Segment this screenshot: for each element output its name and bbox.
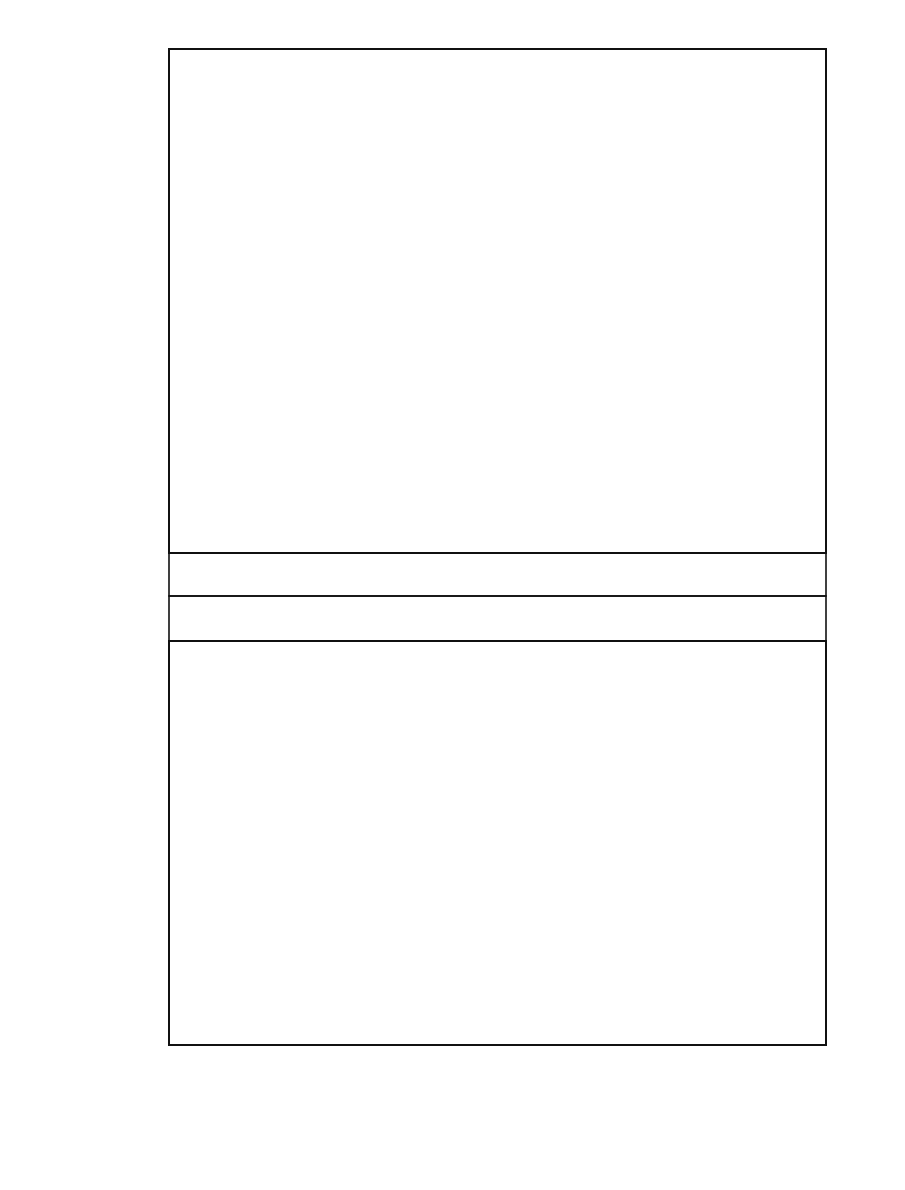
bottom-panel-frame: [169, 641, 826, 1045]
stratigraphy-band: [169, 553, 826, 641]
foram-zone-row: [169, 596, 826, 641]
k129-chart: [0, 0, 905, 1190]
isotope-stage-row: [169, 553, 826, 596]
top-panel-frame: [169, 49, 826, 553]
